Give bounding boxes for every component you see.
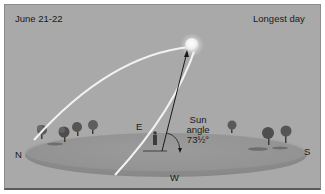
tree-icon (88, 120, 98, 134)
direction-north: N (15, 150, 22, 160)
title-label: Longest day (253, 14, 305, 24)
direction-west: W (170, 173, 179, 183)
sun-angle-value: 73½° (181, 135, 215, 145)
tree-icon (228, 121, 237, 134)
direction-east: E (136, 122, 142, 132)
sun-angle-label: Sun angle 73½° (181, 115, 215, 145)
tree-icon (281, 126, 292, 144)
sun-path-diagram (0, 0, 325, 194)
ground-disc (25, 133, 307, 177)
date-label: June 21-22 (15, 14, 63, 24)
tree-icon (72, 122, 82, 136)
sun-icon (180, 33, 204, 57)
direction-south: S (304, 147, 310, 157)
